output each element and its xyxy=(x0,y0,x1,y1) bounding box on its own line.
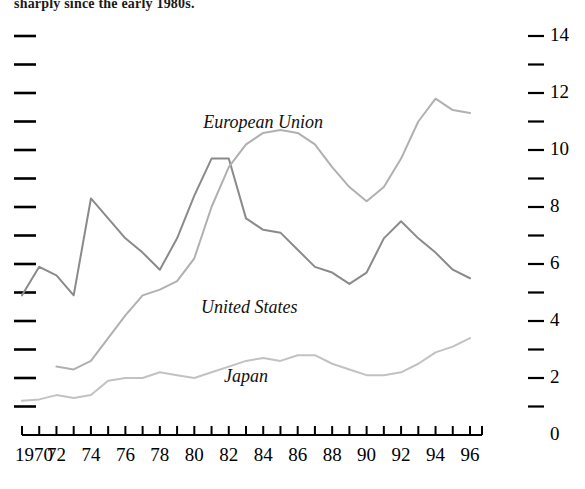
x-axis xyxy=(22,426,482,435)
series-label-united-states: United States xyxy=(201,297,298,318)
x-axis-tick-label: 74 xyxy=(74,444,108,466)
y-axis-tick-label: 4 xyxy=(550,309,560,331)
y-axis-tick-label: 0 xyxy=(550,423,560,445)
chart-plot-area xyxy=(0,0,585,489)
x-axis-tick-label: 96 xyxy=(453,444,487,466)
series-lines xyxy=(22,99,470,401)
x-axis-tick-label: 78 xyxy=(143,444,177,466)
left-axis-ticks xyxy=(14,36,36,407)
y-axis-tick-label: 6 xyxy=(550,252,560,274)
x-axis-tick-label: 90 xyxy=(350,444,384,466)
y-axis-tick-label: 10 xyxy=(550,138,569,160)
series-label-european-union: European Union xyxy=(203,112,323,133)
series-label-japan: Japan xyxy=(224,366,268,387)
y-axis-tick-label: 2 xyxy=(550,366,560,388)
x-axis-tick-label: 92 xyxy=(384,444,418,466)
x-axis-tick-label: 88 xyxy=(315,444,349,466)
chart-container: sharply since the early 1980s. 024681012… xyxy=(0,0,585,489)
y-axis-tick-label: 14 xyxy=(550,24,569,46)
y-axis-tick-label: 8 xyxy=(550,195,560,217)
x-axis-tick-label: 84 xyxy=(246,444,280,466)
x-axis-tick-label: 94 xyxy=(419,444,453,466)
x-axis-tick-label: 86 xyxy=(281,444,315,466)
x-axis-tick-label: 80 xyxy=(177,444,211,466)
y-axis-tick-label: 12 xyxy=(550,81,569,103)
x-axis-tick-label: 72 xyxy=(39,444,73,466)
x-axis-tick-label: 82 xyxy=(212,444,246,466)
right-axis-ticks xyxy=(528,36,544,407)
x-axis-tick-label: 76 xyxy=(108,444,142,466)
